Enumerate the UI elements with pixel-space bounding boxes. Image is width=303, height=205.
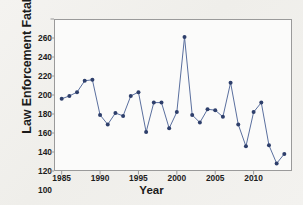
data-point	[213, 108, 217, 112]
data-point	[121, 114, 125, 118]
data-point	[67, 94, 71, 98]
data-point	[259, 101, 263, 105]
y-tick-label: 220	[26, 71, 52, 81]
y-tick-label: 240	[26, 52, 52, 62]
data-point	[190, 113, 194, 117]
chart-figure: Law Enforcement Fatalities 1001201401601…	[0, 0, 303, 205]
data-point-markers	[60, 35, 287, 165]
data-point	[236, 122, 240, 126]
data-point	[98, 113, 102, 117]
y-tick-label: 200	[26, 90, 52, 100]
data-point	[152, 101, 156, 105]
x-tick-label: 1995	[118, 173, 158, 183]
data-line	[62, 37, 285, 163]
data-point	[144, 130, 148, 134]
data-point	[275, 161, 279, 165]
y-tick-label: 260	[26, 33, 52, 43]
x-tick-label: 2005	[195, 173, 235, 183]
y-tick-label: 140	[26, 147, 52, 157]
x-tick-label: 1985	[42, 173, 82, 183]
plot-area	[54, 19, 292, 171]
data-point	[198, 121, 202, 125]
data-point	[167, 126, 171, 130]
data-point	[113, 111, 117, 115]
chart-svg	[54, 19, 292, 171]
data-point	[106, 122, 110, 126]
data-point	[229, 81, 233, 85]
data-point	[75, 90, 79, 94]
data-point	[60, 97, 64, 101]
data-point	[267, 143, 271, 147]
y-tick-label: 160	[26, 128, 52, 138]
data-point	[244, 144, 248, 148]
data-point	[282, 152, 286, 156]
data-point	[175, 110, 179, 114]
y-tick-label: 180	[26, 109, 52, 119]
x-tick-label: 1990	[80, 173, 120, 183]
data-point	[159, 101, 163, 105]
data-point	[183, 35, 187, 39]
data-point	[221, 115, 225, 119]
data-point	[206, 107, 210, 111]
data-point	[252, 110, 256, 114]
y-axis-tick-labels: 100120140160180200220240260	[22, 19, 52, 171]
x-axis-label: Year	[0, 184, 303, 196]
data-point	[136, 90, 140, 94]
x-tick-label: 2010	[234, 173, 274, 183]
data-point	[83, 79, 87, 83]
data-point	[129, 94, 133, 98]
data-point	[90, 78, 94, 82]
x-tick-label: 2000	[157, 173, 197, 183]
